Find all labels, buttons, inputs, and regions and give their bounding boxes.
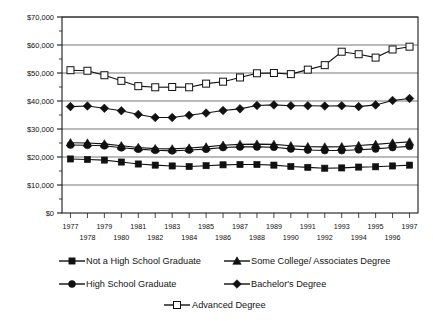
- data-point-marker: [220, 78, 227, 85]
- y-axis-tick-label: $0: [46, 209, 54, 218]
- data-point-marker: [233, 280, 242, 289]
- data-point-marker: [287, 101, 296, 110]
- data-point-marker: [354, 102, 363, 111]
- data-point-marker: [320, 102, 329, 111]
- legend-item[interactable]: High School Graduate: [59, 279, 176, 289]
- data-series-group: [66, 43, 414, 171]
- x-axis-tick-label: 1988: [249, 233, 265, 242]
- data-point-marker: [174, 302, 181, 309]
- data-point-marker: [254, 161, 260, 167]
- data-point-marker: [237, 161, 243, 167]
- y-axis-tick-label: $50,000: [27, 69, 54, 78]
- data-point-marker: [321, 62, 328, 69]
- data-point-marker: [117, 107, 126, 116]
- data-point-marker: [186, 163, 192, 169]
- data-point-marker: [271, 162, 277, 168]
- data-point-marker: [83, 102, 92, 111]
- y-axis-tick-label: $10,000: [27, 181, 54, 190]
- data-point-marker: [168, 113, 177, 122]
- data-point-marker: [356, 164, 362, 170]
- plot-area-frame: [62, 17, 418, 213]
- data-point-marker: [322, 165, 328, 171]
- data-point-marker: [371, 101, 380, 110]
- x-axis-tick-label: 1995: [368, 222, 384, 231]
- x-axis-tick-label: 1983: [164, 222, 180, 231]
- x-axis-tick-label: 1980: [113, 233, 129, 242]
- data-point-marker: [186, 84, 193, 91]
- data-point-marker: [304, 101, 313, 110]
- data-point-marker: [67, 156, 73, 162]
- y-axis-tick-label: $60,000: [27, 41, 54, 50]
- data-point-marker: [270, 70, 277, 77]
- x-axis-tick-label: 1977: [62, 222, 78, 231]
- data-point-marker: [288, 163, 294, 169]
- data-point-marker: [134, 110, 143, 119]
- data-point-marker: [101, 157, 107, 163]
- data-point-marker: [203, 80, 210, 87]
- x-axis-tick-label: 1986: [215, 233, 231, 242]
- data-point-marker: [304, 66, 311, 73]
- data-point-marker: [84, 156, 90, 162]
- data-point-marker: [405, 94, 414, 103]
- data-point-marker: [338, 48, 345, 55]
- legend-item[interactable]: Not a High School Graduate: [59, 256, 201, 266]
- data-point-marker: [339, 165, 345, 171]
- data-point-marker: [373, 164, 379, 170]
- data-point-marker: [355, 51, 362, 58]
- legend-label: Bachelor's Degree: [251, 279, 326, 289]
- legend-item[interactable]: Some College/ Associates Degree: [224, 256, 390, 266]
- legend-label: Some College/ Associates Degree: [251, 256, 390, 266]
- x-axis-tick-label: 1996: [385, 233, 401, 242]
- y-axis-tick-labels-group: $70,000$60,000$50,000$40,000$30,000$20,0…: [27, 13, 54, 218]
- legend-item[interactable]: Advanced Degree: [164, 300, 266, 310]
- data-point-marker: [220, 162, 226, 168]
- data-point-marker: [406, 43, 413, 50]
- data-point-marker: [118, 77, 125, 84]
- series-advanced-degree: [67, 43, 413, 91]
- data-point-marker: [389, 46, 396, 53]
- plot-border: [62, 17, 418, 213]
- data-point-marker: [287, 71, 294, 78]
- data-point-marker: [169, 163, 175, 169]
- data-point-marker: [337, 101, 346, 110]
- x-axis-tick-label: 1993: [334, 222, 350, 231]
- data-point-marker: [388, 96, 397, 105]
- data-point-marker: [118, 159, 124, 165]
- x-axis-tick-label: 1992: [317, 233, 333, 242]
- data-point-marker: [406, 162, 412, 168]
- data-point-marker: [270, 101, 279, 110]
- series-not-a-high-school-graduate: [67, 156, 412, 171]
- legend-item[interactable]: Bachelor's Degree: [224, 279, 326, 289]
- x-axis-tick-label: 1982: [147, 233, 163, 242]
- gridlines-group: [62, 17, 418, 185]
- x-axis-tick-label: 1985: [198, 222, 214, 231]
- data-point-marker: [202, 109, 211, 118]
- x-axis-tick-label: 1997: [402, 222, 418, 231]
- data-point-marker: [219, 106, 228, 115]
- data-point-marker: [135, 161, 141, 167]
- data-point-marker: [84, 67, 91, 74]
- legend-label: High School Graduate: [86, 279, 176, 289]
- data-point-marker: [135, 83, 142, 90]
- data-point-marker: [237, 74, 244, 81]
- x-axis-tick-label: 1991: [300, 222, 316, 231]
- data-point-marker: [185, 111, 194, 120]
- data-point-marker: [69, 258, 75, 264]
- data-point-marker: [101, 72, 108, 79]
- x-axis-tick-label: 1994: [351, 233, 367, 242]
- data-point-marker: [305, 164, 311, 170]
- chart-figure: $70,000$60,000$50,000$40,000$30,000$20,0…: [0, 0, 433, 321]
- data-point-marker: [405, 138, 413, 146]
- data-point-marker: [389, 163, 395, 169]
- legend-label: Advanced Degree: [192, 300, 266, 310]
- data-point-marker: [253, 70, 260, 77]
- x-axis-tick-label: 1979: [96, 222, 112, 231]
- data-point-marker: [236, 105, 245, 114]
- data-point-marker: [67, 67, 74, 74]
- data-point-marker: [66, 102, 75, 111]
- data-point-marker: [152, 84, 159, 91]
- x-axis-tick-label: 1984: [181, 233, 197, 242]
- earnings-by-education-line-chart: $70,000$60,000$50,000$40,000$30,000$20,0…: [0, 0, 433, 321]
- x-axis-tick-label: 1978: [79, 233, 95, 242]
- y-tick-marks-group: [57, 17, 62, 213]
